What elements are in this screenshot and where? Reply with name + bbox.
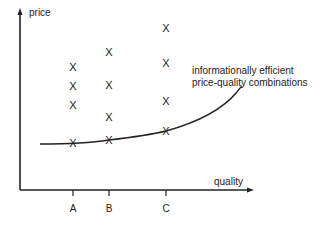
marker-c-efficient: X [161,126,171,137]
marker-b-efficient: X [104,135,114,146]
marker-c-2: X [161,58,171,69]
x-axis-arrow-icon [247,188,254,193]
marker-b-3: X [104,112,114,123]
y-axis-label: price [29,7,51,19]
marker-a-1: X [68,62,78,73]
x-axis-label: quality [214,176,243,188]
marker-a-efficient: X [68,138,78,149]
tick-label-c: C [160,203,172,214]
marker-c-1: X [161,23,171,34]
tick-label-a: A [67,203,79,214]
marker-b-2: X [104,80,114,91]
y-axis-arrow-icon [18,8,23,15]
annotation-line-1: informationally efficient [192,65,294,77]
tick-label-b: B [103,203,115,214]
annotation-line-2: price-quality combinations [192,77,308,89]
marker-a-2: X [68,81,78,92]
marker-b-1: X [104,47,114,58]
marker-c-3: X [161,96,171,107]
marker-a-3: X [68,100,78,111]
